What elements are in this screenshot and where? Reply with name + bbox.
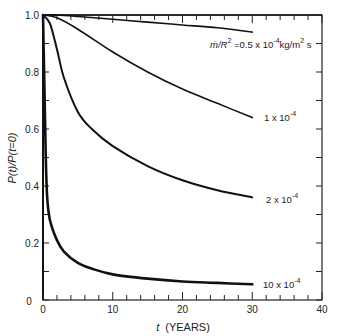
axis-ticks: 0102030400.20.40.60.81.0 — [25, 10, 328, 316]
x-tick-label: 40 — [316, 304, 328, 315]
series-label-10e-4: 10 x 10-4 — [263, 277, 301, 290]
y-tick-label: 0.6 — [25, 124, 39, 135]
x-tick-label: 20 — [177, 304, 189, 315]
origin-label: 0 — [26, 296, 32, 307]
x-axis-label: t (YEARS) — [156, 321, 210, 333]
x-tick-label: 0 — [40, 304, 46, 315]
chart: 0102030400.20.40.60.81.0 P(t)/P(t=0) t (… — [0, 0, 340, 336]
y-tick-label: 0.2 — [25, 238, 39, 249]
y-tick-label: 0.8 — [25, 67, 39, 78]
x-tick-label: 10 — [107, 304, 119, 315]
series-label-2e-4: 2 x 10-4 — [266, 192, 298, 205]
data-curves — [43, 15, 252, 284]
curve-series-0 — [43, 15, 252, 32]
x-tick-label: 30 — [247, 304, 259, 315]
series-label-1e-4: 1 x 10-4 — [264, 110, 296, 123]
curve-series-1 — [43, 15, 252, 118]
curve-series-3 — [43, 15, 252, 284]
series-label-0.5e-4: ṁ/R2 =0.5 x 10-4kg/m2 s — [210, 37, 312, 50]
y-axis-label: P(t)/P(t=0) — [6, 132, 18, 183]
y-tick-label: 0.4 — [25, 181, 39, 192]
y-tick-label: 1.0 — [25, 10, 39, 21]
plot-frame — [43, 15, 322, 300]
